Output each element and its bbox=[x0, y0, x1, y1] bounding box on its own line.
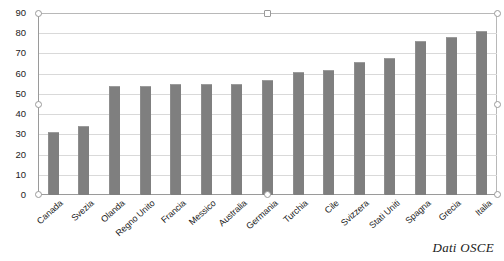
bar-canada[interactable] bbox=[48, 132, 59, 195]
handle-middle-right[interactable] bbox=[494, 101, 501, 108]
x-label-svizzera: Svizzera bbox=[339, 198, 371, 228]
handle-bottom-left[interactable] bbox=[35, 191, 42, 198]
y-tick-label-30: 30 bbox=[0, 129, 26, 138]
bar-germania[interactable] bbox=[262, 80, 273, 195]
handle-top-center[interactable] bbox=[264, 10, 271, 17]
x-label-canada: Canada bbox=[35, 198, 65, 226]
bars-layer bbox=[38, 13, 497, 195]
y-tick-label-40: 40 bbox=[0, 109, 26, 118]
x-label-olanda: Olanda bbox=[98, 198, 126, 224]
y-tick-label-90: 90 bbox=[0, 8, 26, 17]
y-tick-label-10: 10 bbox=[0, 170, 26, 179]
bar-francia[interactable] bbox=[170, 84, 181, 195]
x-label-francia: Francia bbox=[159, 198, 187, 225]
y-tick-label-60: 60 bbox=[0, 69, 26, 78]
x-label-turchia: Turchia bbox=[282, 198, 310, 225]
y-tick-label-50: 50 bbox=[0, 89, 26, 98]
handle-middle-left[interactable] bbox=[35, 101, 42, 108]
x-axis-category-labels: CanadaSveziaOlandaRegno UnitoFranciaMess… bbox=[38, 196, 497, 256]
handle-bottom-center[interactable] bbox=[264, 191, 271, 198]
bar-regno-unito[interactable] bbox=[140, 86, 151, 195]
x-label-germania: Germania bbox=[244, 198, 279, 231]
bar-messico[interactable] bbox=[201, 84, 212, 195]
bar-chart-object[interactable]: 0102030405060708090 CanadaSveziaOlandaRe… bbox=[0, 0, 504, 261]
handle-top-left[interactable] bbox=[35, 10, 42, 17]
source-caption: Dati OSCE bbox=[432, 240, 494, 256]
bar-stati-uniti[interactable] bbox=[384, 58, 395, 196]
bar-spagna[interactable] bbox=[415, 41, 426, 195]
bar-grecia[interactable] bbox=[446, 37, 457, 195]
y-tick-label-0: 0 bbox=[0, 190, 26, 199]
x-label-italia: Italia bbox=[473, 198, 493, 218]
bar-cile[interactable] bbox=[323, 70, 334, 195]
x-label-cile: Cile bbox=[322, 198, 340, 216]
bar-turchia[interactable] bbox=[293, 72, 304, 195]
bar-svizzera[interactable] bbox=[354, 62, 365, 195]
y-tick-label-70: 70 bbox=[0, 48, 26, 57]
x-label-grecia: Grecia bbox=[437, 198, 463, 223]
handle-top-right[interactable] bbox=[494, 10, 501, 17]
bar-australia[interactable] bbox=[231, 84, 242, 195]
y-tick-label-80: 80 bbox=[0, 28, 26, 37]
x-label-messico: Messico bbox=[187, 198, 218, 227]
bar-svezia[interactable] bbox=[78, 126, 89, 195]
y-tick-label-20: 20 bbox=[0, 150, 26, 159]
bar-italia[interactable] bbox=[476, 31, 487, 195]
bar-olanda[interactable] bbox=[109, 86, 120, 195]
x-label-spagna: Spagna bbox=[403, 198, 432, 226]
x-label-svezia: Svezia bbox=[69, 198, 95, 223]
x-label-stati-uniti: Stati Uniti bbox=[367, 198, 402, 230]
handle-bottom-right[interactable] bbox=[494, 191, 501, 198]
